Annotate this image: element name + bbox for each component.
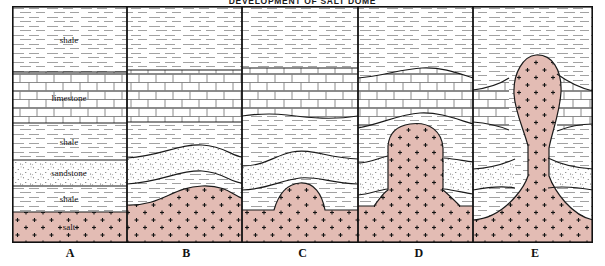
diagram-frame: shale limestone shale sandstone shale sa… bbox=[12, 6, 593, 243]
panel-label-b: B bbox=[128, 245, 244, 265]
panel-label-e: E bbox=[477, 245, 593, 265]
caption-limestone: limestone bbox=[52, 93, 87, 103]
panel-E-strata bbox=[473, 6, 593, 243]
caption-shale-lower: shale bbox=[60, 194, 79, 204]
salt-dome-diagram: shale limestone shale sandstone shale sa… bbox=[12, 6, 593, 243]
panel-label-c: C bbox=[244, 245, 360, 265]
panel-B-strata bbox=[127, 6, 242, 243]
caption-shale-upper: shale bbox=[60, 35, 79, 45]
caption-salt: salt bbox=[63, 222, 76, 232]
panel-label-row: A B C D E bbox=[12, 245, 593, 265]
panel-D-strata bbox=[358, 6, 473, 243]
panel-label-d: D bbox=[361, 245, 477, 265]
caption-sandstone: sandstone bbox=[51, 168, 87, 178]
figure-container: DEVELOPMENT OF SALT DOME bbox=[0, 0, 605, 266]
panel-C-strata bbox=[242, 6, 358, 243]
caption-shale-middle: shale bbox=[60, 137, 79, 147]
panel-label-a: A bbox=[12, 245, 128, 265]
